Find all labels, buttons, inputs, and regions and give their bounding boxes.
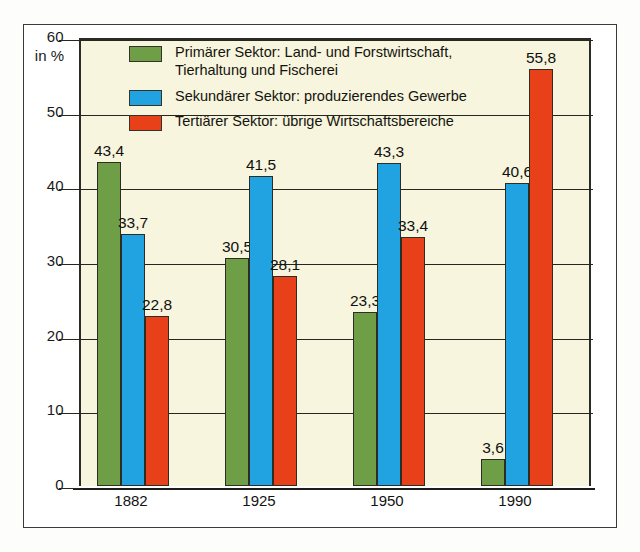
y-axis-tick-label-40: 40: [22, 177, 64, 194]
x-axis-labels: 1882192519501990: [79, 492, 591, 518]
legend-item-1[interactable]: Primärer Sektor: Land- und Forstwirtscha…: [129, 44, 579, 79]
bar-1950-3[interactable]: [401, 237, 425, 486]
y-axis-tick-label-60: 60: [22, 28, 64, 45]
y-axis-tick-label-50: 50: [22, 103, 64, 120]
plot-inner: Primärer Sektor: Land- und Forstwirtscha…: [81, 40, 589, 486]
gridline-60: [81, 40, 593, 41]
legend-swatch-icon-3: [129, 115, 162, 131]
bar-1990-3[interactable]: [529, 69, 553, 486]
bar-1990-1[interactable]: [481, 459, 505, 486]
plot-area: Primärer Sektor: Land- und Forstwirtscha…: [79, 38, 591, 486]
y-tick-0: [59, 488, 81, 489]
y-axis-tick-label-30: 30: [22, 252, 64, 269]
y-tick-20: [59, 339, 81, 340]
legend-label-1: Primärer Sektor: Land- und Forstwirtscha…: [175, 44, 452, 79]
x-axis-label-1925: 1925: [219, 492, 299, 509]
bar-1882-2[interactable]: [121, 234, 145, 486]
chart-figure: 0102030405060 in % Primärer Sektor: Land…: [0, 0, 640, 552]
legend-item-3[interactable]: Tertiärer Sektor: übrige Wirtschaftsbere…: [129, 113, 579, 131]
bar-value-label-1882-1: 43,4: [86, 142, 132, 160]
bar-value-label-1990-3: 55,8: [518, 49, 564, 67]
legend-label-2: Sekundärer Sektor: produzierendes Gewerb…: [175, 88, 467, 106]
bar-value-label-1950-3: 33,4: [390, 217, 436, 235]
legend-item-2[interactable]: Sekundärer Sektor: produzierendes Gewerb…: [129, 88, 579, 106]
x-axis-label-1950: 1950: [347, 492, 427, 509]
x-axis-label-1882: 1882: [91, 492, 171, 509]
bar-value-label-1882-2: 33,7: [110, 214, 156, 232]
legend-swatch-icon-1: [129, 46, 162, 62]
legend-label-3: Tertiärer Sektor: übrige Wirtschaftsbere…: [175, 113, 454, 131]
legend-swatch-icon-2: [129, 90, 162, 106]
x-axis-line: [73, 488, 595, 490]
y-tick-40: [59, 189, 81, 190]
bar-1882-3[interactable]: [145, 316, 169, 486]
y-tick-30: [59, 264, 81, 265]
bar-1950-1[interactable]: [353, 312, 377, 486]
x-axis-label-1990: 1990: [475, 492, 555, 509]
bar-value-label-1925-3: 28,1: [262, 256, 308, 274]
y-tick-10: [59, 413, 81, 414]
y-axis-tick-label-20: 20: [22, 327, 64, 344]
bar-1925-2[interactable]: [249, 176, 273, 486]
bar-1882-1[interactable]: [97, 162, 121, 486]
bar-1990-2[interactable]: [505, 183, 529, 486]
y-axis-tick-label-10: 10: [22, 401, 64, 418]
y-tick-50: [59, 115, 81, 116]
bar-value-label-1882-3: 22,8: [134, 296, 180, 314]
y-axis-tick-label-0: 0: [22, 476, 64, 493]
bar-1925-1[interactable]: [225, 258, 249, 486]
bar-value-label-1950-2: 43,3: [366, 143, 412, 161]
bar-1950-2[interactable]: [377, 163, 401, 486]
y-axis-unit-label: in %: [18, 47, 64, 64]
bar-1925-3[interactable]: [273, 276, 297, 486]
chart-legend: Primärer Sektor: Land- und Forstwirtscha…: [129, 44, 579, 138]
y-tick-60: [59, 40, 81, 41]
bar-value-label-1925-2: 41,5: [238, 156, 284, 174]
